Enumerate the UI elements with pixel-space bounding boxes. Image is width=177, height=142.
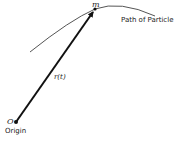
origin-point-label: O — [7, 117, 14, 126]
position-vector-arrow — [16, 12, 93, 122]
origin-label: Origin — [5, 127, 26, 135]
vector-label: r(t) — [54, 73, 66, 81]
path-label: Path of Particle — [121, 16, 173, 24]
origin-point — [14, 120, 18, 124]
position-vector-diagram: m Path of Particle r(t) O Origin — [0, 0, 177, 142]
particle-label: m — [92, 0, 100, 9]
